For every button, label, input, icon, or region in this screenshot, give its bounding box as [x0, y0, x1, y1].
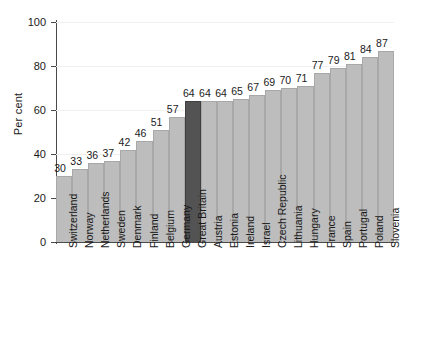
bar-value-label: 51 [149, 117, 165, 128]
x-axis-category-label: Spain [342, 221, 353, 248]
bar-value-label: 77 [310, 60, 326, 71]
x-axis-category-label: Lithuania [293, 205, 304, 248]
gridline [56, 66, 394, 67]
y-axis-tick-label: 40 [6, 149, 46, 160]
x-axis-category-label: Portugal [358, 209, 369, 248]
x-axis-category-label: Belgium [165, 210, 176, 248]
bar-value-label: 64 [197, 88, 213, 99]
bar-value-label: 37 [100, 148, 116, 159]
x-axis-category-label: Great Britain [197, 189, 208, 248]
bar-value-label: 81 [342, 51, 358, 62]
y-axis-tick-label: 20 [6, 193, 46, 204]
bar-value-label: 65 [229, 86, 245, 97]
bar-value-label: 84 [358, 44, 374, 55]
x-axis-category-label: Ireland [245, 216, 256, 248]
x-axis-category-label: Norway [84, 212, 95, 248]
bar-value-label: 87 [374, 38, 390, 49]
x-axis-category-label: Austria [213, 215, 224, 248]
bar-value-label: 67 [245, 82, 261, 93]
x-axis-category-label: Finland [149, 214, 160, 248]
bar-value-label: 64 [181, 88, 197, 99]
x-axis-category-label: Sweden [116, 210, 127, 248]
bar-value-label: 42 [116, 137, 132, 148]
x-axis-category-label: Slovenia [390, 208, 401, 248]
x-axis-category-label: Germany [181, 205, 192, 248]
x-axis-category-label: Switzerland [68, 194, 79, 248]
x-axis-category-label: Netherlands [100, 191, 111, 248]
x-axis-category-label: Poland [374, 215, 385, 248]
y-axis-tick-label: 60 [6, 105, 46, 116]
y-axis-tick-label: 0 [6, 237, 46, 248]
x-axis-category-label: France [326, 215, 337, 248]
x-axis-category-label: Hungary [309, 208, 320, 248]
bar-value-label: 57 [165, 104, 181, 115]
bar-value-label: 46 [132, 128, 148, 139]
bar-value-label: 36 [84, 150, 100, 161]
gridline [56, 22, 394, 23]
bar-value-label: 71 [293, 73, 309, 84]
bar-value-label: 33 [68, 156, 84, 167]
y-axis-tick-label: 100 [6, 17, 46, 28]
x-axis-category-label: Denmark [132, 205, 143, 248]
x-axis-category-label: Estonia [229, 213, 240, 248]
bar-value-label: 79 [326, 55, 342, 66]
bar-value-label: 30 [52, 163, 68, 174]
bar-value-label: 69 [261, 77, 277, 88]
y-axis-tick-mark [51, 242, 57, 243]
x-axis-category-label: Israel [261, 222, 272, 248]
x-axis-category-label: Czech Republic [277, 174, 288, 248]
y-axis-tick-label: 80 [6, 61, 46, 72]
bar-value-label: 70 [277, 75, 293, 86]
bar-chart: Per cent 020406080100 303336374246515764… [0, 0, 425, 337]
bar-value-label: 64 [213, 88, 229, 99]
